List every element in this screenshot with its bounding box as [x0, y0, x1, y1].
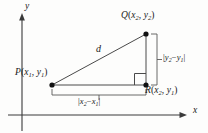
point-label-r-close: ) [174, 85, 177, 95]
y-axis-label: y [25, 2, 29, 12]
horizontal-leg-bar-close: | [98, 96, 100, 106]
point-label-r: R(x2, y1) [145, 86, 178, 96]
point-marker-p [49, 82, 54, 87]
point-label-p-close: ) [44, 67, 47, 77]
distance-formula-figure: Q(x2, y2) P(x1, y1) R(x2, y1) d |y2−y1| … [0, 0, 208, 133]
vertical-leg-label: |y2−y1| [163, 53, 185, 63]
distance-label-d: d [96, 44, 101, 54]
point-label-p: P(x1, y1) [15, 68, 48, 78]
y-axis-arrowhead [19, 13, 25, 21]
point-marker-q [143, 31, 148, 36]
hypotenuse-segment-pq [52, 34, 146, 85]
horizontal-leg-label: |x2−x1| [78, 97, 100, 107]
x-axis-label: x [193, 106, 197, 116]
vertical-leg-bar-close: | [183, 52, 185, 62]
point-label-q-close: ) [151, 10, 154, 20]
point-label-q: Q(x2, y2) [121, 11, 155, 21]
point-label-q-name: Q [121, 10, 128, 20]
x-axis-arrowhead [180, 112, 188, 118]
